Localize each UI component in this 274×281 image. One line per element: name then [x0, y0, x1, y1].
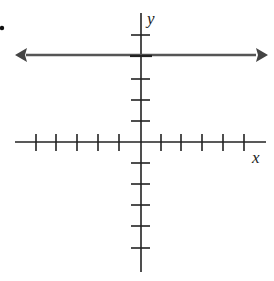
left-arrow-icon — [15, 48, 27, 62]
y-axis-label: y — [145, 9, 155, 28]
x-axis-label: x — [251, 148, 260, 167]
bullet-dot — [0, 26, 4, 30]
right-arrow-icon — [256, 48, 268, 62]
coordinate-plane: x y — [0, 0, 274, 281]
